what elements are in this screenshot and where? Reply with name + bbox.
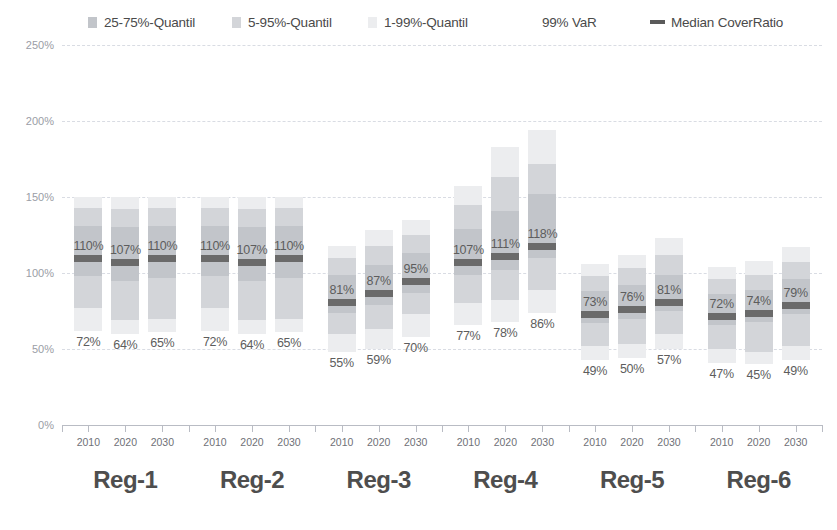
bar-reg-1-2020[interactable] <box>111 197 139 334</box>
y-axis-tick-label: 50% <box>32 343 54 355</box>
x-tickmark <box>416 425 417 432</box>
median-value-label: 76% <box>620 290 644 304</box>
bar-reg-3-2020[interactable] <box>365 230 393 349</box>
median-cover-ratio-marker <box>275 255 303 262</box>
x-axis-year-label: 2020 <box>620 436 643 448</box>
median-value-label: 107% <box>110 243 141 257</box>
x-axis-year-label: 2030 <box>404 436 427 448</box>
median-cover-ratio-marker <box>201 255 229 262</box>
bar-reg-5-2020[interactable] <box>618 255 646 358</box>
median-value-label: 111% <box>491 237 520 251</box>
x-axis-year-label: 2010 <box>77 436 100 448</box>
x-axis-year-label: 2010 <box>330 436 353 448</box>
bar-reg-4-2020[interactable] <box>491 147 519 322</box>
legend-label: 1-99%-Quantil <box>384 15 468 30</box>
var-99-value-label: 59% <box>367 353 391 367</box>
legend-item-1[interactable]: 25-75%-Quantil <box>88 15 195 30</box>
x-tickmark <box>162 425 163 432</box>
median-value-label: 79% <box>784 286 808 300</box>
bar-reg-2-2030[interactable] <box>275 197 303 332</box>
bar-reg-4-2030[interactable] <box>528 130 556 312</box>
x-tickmark <box>289 425 290 432</box>
median-cover-ratio-marker <box>238 259 266 266</box>
x-group-boundary-tickmark <box>189 425 190 432</box>
x-tickmark <box>595 425 596 432</box>
x-axis-group-labels: Reg-1Reg-2Reg-3Reg-4Reg-5Reg-6 <box>62 466 822 506</box>
var-99-value-label: 55% <box>330 356 354 370</box>
legend-item-3[interactable]: 1-99%-Quantil <box>368 15 468 30</box>
y-axis-tick-label: 250% <box>26 39 54 51</box>
var-99-value-label: 47% <box>710 367 734 381</box>
bar-reg-6-2020[interactable] <box>745 261 773 364</box>
median-cover-ratio-marker <box>491 253 519 260</box>
x-group-boundary-tickmark <box>822 425 823 432</box>
legend-swatch-icon <box>368 17 377 28</box>
var-99-value-label: 70% <box>404 341 428 355</box>
median-cover-ratio-marker <box>454 259 482 266</box>
median-value-label: 87% <box>367 274 391 288</box>
var-99-value-label: 49% <box>784 364 808 378</box>
y-axis-tick-label: 0% <box>38 419 54 431</box>
y-axis-tick-label: 200% <box>26 115 54 127</box>
legend-label: 25-75%-Quantil <box>104 15 195 30</box>
bar-reg-6-2030[interactable] <box>782 247 810 359</box>
var-99-value-label: 77% <box>456 329 480 343</box>
legend-item-4[interactable]: 99% VaR <box>542 15 597 30</box>
y-axis-tick-label: 150% <box>26 191 54 203</box>
legend-swatch-icon <box>88 17 97 28</box>
group-label-reg-3: Reg-3 <box>347 466 411 494</box>
median-cover-ratio-marker <box>365 290 393 297</box>
legend-label: 99% VaR <box>542 15 597 30</box>
var-99-value-label: 45% <box>747 368 771 382</box>
gridline-200 <box>62 121 822 122</box>
bar-reg-5-2010[interactable] <box>581 264 609 360</box>
group-label-reg-1: Reg-1 <box>93 466 157 494</box>
bar-reg-3-2010[interactable] <box>328 246 356 352</box>
legend-item-2[interactable]: 5-95%-Quantil <box>232 15 332 30</box>
bar-reg-2-2020[interactable] <box>238 197 266 334</box>
median-value-label: 73% <box>583 295 607 309</box>
x-group-boundary-tickmark <box>569 425 570 432</box>
x-axis-year-label: 2030 <box>657 436 680 448</box>
median-value-label: 110% <box>200 239 230 253</box>
var-99-value-label: 65% <box>150 336 174 350</box>
median-cover-ratio-marker <box>402 278 430 285</box>
x-axis-year-label: 2030 <box>784 436 807 448</box>
x-group-boundary-tickmark <box>62 425 63 432</box>
x-tickmark <box>669 425 670 432</box>
bar-reg-1-2010[interactable] <box>74 197 102 331</box>
legend-median-line-icon <box>650 20 665 24</box>
x-axis-year-label: 2030 <box>277 436 300 448</box>
median-cover-ratio-marker <box>74 255 102 262</box>
x-tickmark <box>125 425 126 432</box>
legend-swatch-icon <box>232 17 241 28</box>
x-tickmark <box>342 425 343 432</box>
plot-area: 250%200%150%100%50%0%110%72%107%64%110%6… <box>62 45 822 425</box>
x-group-boundary-tickmark <box>695 425 696 432</box>
legend-label: Median CoverRatio <box>671 15 783 30</box>
chart-legend: 25-75%-Quantil5-95%-Quantil1-99%-Quantil… <box>0 8 837 36</box>
bar-reg-1-2030[interactable] <box>148 197 176 332</box>
legend-item-5[interactable]: Median CoverRatio <box>650 15 783 30</box>
var-99-value-label: 64% <box>113 338 137 352</box>
x-tickmark <box>632 425 633 432</box>
median-value-label: 74% <box>747 294 771 308</box>
median-value-label: 81% <box>657 283 681 297</box>
median-value-label: 110% <box>147 239 177 253</box>
x-tickmark <box>252 425 253 432</box>
x-group-boundary-tickmark <box>315 425 316 432</box>
median-value-label: 110% <box>274 239 304 253</box>
bar-reg-6-2010[interactable] <box>708 267 736 363</box>
median-cover-ratio-marker <box>111 259 139 266</box>
x-axis-year-label: 2010 <box>710 436 733 448</box>
x-tickmark <box>88 425 89 432</box>
x-group-boundary-tickmark <box>442 425 443 432</box>
quantile-bar-chart: 25-75%-Quantil5-95%-Quantil1-99%-Quantil… <box>0 0 837 530</box>
x-axis-year-label: 2020 <box>240 436 263 448</box>
x-tickmark <box>379 425 380 432</box>
median-value-label: 72% <box>710 297 734 311</box>
var-99-value-label: 86% <box>530 317 554 331</box>
bar-reg-2-2010[interactable] <box>201 197 229 331</box>
bar-reg-3-2030[interactable] <box>402 220 430 337</box>
median-cover-ratio-marker <box>618 306 646 313</box>
